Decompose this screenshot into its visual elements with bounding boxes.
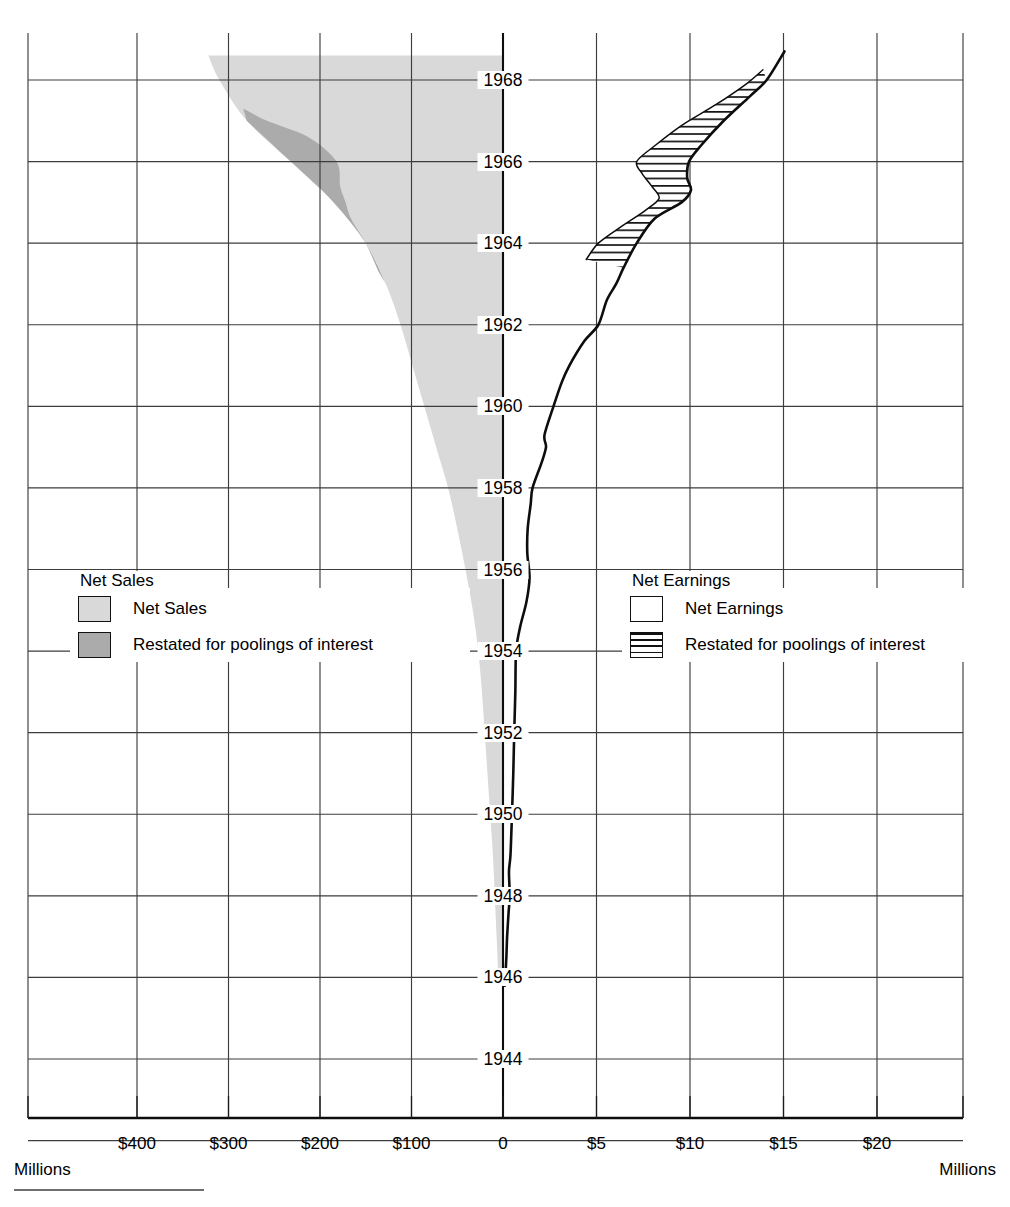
year-label-1944: 1944 bbox=[478, 1050, 529, 1068]
earnings-tick-10: $10 bbox=[676, 1135, 704, 1152]
net-earnings-restated-hatch bbox=[586, 70, 766, 268]
net-sales-swatch-icon bbox=[78, 596, 111, 622]
sales-tick-200: $200 bbox=[301, 1135, 339, 1152]
legend-label-sales-restated: Restated for poolings of interest bbox=[133, 635, 373, 655]
right-axis-unit: Millions bbox=[939, 1160, 996, 1180]
legend-item-earnings-restated[interactable]: Restated for poolings of interest bbox=[630, 632, 925, 658]
earnings-legend-title: Net Earnings bbox=[625, 571, 737, 591]
sales-restated-swatch-icon bbox=[78, 632, 111, 658]
earnings-tick-5: $5 bbox=[587, 1135, 606, 1152]
legend-label-net-sales: Net Sales bbox=[133, 599, 207, 619]
legend-item-sales-restated[interactable]: Restated for poolings of interest bbox=[78, 632, 373, 658]
legend-item-net-earnings[interactable]: Net Earnings bbox=[630, 596, 783, 622]
sales-legend-title: Net Sales bbox=[73, 571, 161, 591]
year-label-1948: 1948 bbox=[478, 887, 529, 905]
year-label-1958: 1958 bbox=[478, 479, 529, 497]
sales-tick-400: $400 bbox=[118, 1135, 156, 1152]
year-label-1950: 1950 bbox=[478, 805, 529, 823]
left-axis-unit: Millions bbox=[14, 1160, 71, 1180]
year-label-1968: 1968 bbox=[478, 71, 529, 89]
net-sales-area bbox=[208, 56, 503, 978]
net-earnings-swatch-icon bbox=[630, 596, 663, 622]
earnings-tick-20: $20 bbox=[863, 1135, 891, 1152]
legend-item-net-sales[interactable]: Net Sales bbox=[78, 596, 207, 622]
year-label-1960: 1960 bbox=[478, 397, 529, 415]
legend-label-net-earnings: Net Earnings bbox=[685, 599, 783, 619]
footer-rule bbox=[14, 1189, 204, 1191]
sales-tick-300: $300 bbox=[210, 1135, 248, 1152]
earnings-tick-15: $15 bbox=[769, 1135, 797, 1152]
sales-tick-0: 0 bbox=[498, 1135, 507, 1152]
net-earnings-curve bbox=[505, 51, 785, 985]
chart-canvas: 1968196619641962196019581956195419521950… bbox=[0, 0, 1010, 1207]
year-label-1964: 1964 bbox=[478, 234, 529, 252]
earnings-restated-swatch-icon bbox=[630, 632, 663, 658]
sales-tick-100: $100 bbox=[393, 1135, 431, 1152]
year-label-1956: 1956 bbox=[478, 561, 529, 579]
axis-ticks bbox=[28, 1096, 963, 1118]
year-label-1954: 1954 bbox=[478, 642, 529, 660]
year-label-1966: 1966 bbox=[478, 153, 529, 171]
year-label-1962: 1962 bbox=[478, 316, 529, 334]
year-label-1952: 1952 bbox=[478, 724, 529, 742]
legend-label-earnings-restated: Restated for poolings of interest bbox=[685, 635, 925, 655]
year-label-1946: 1946 bbox=[478, 968, 529, 986]
